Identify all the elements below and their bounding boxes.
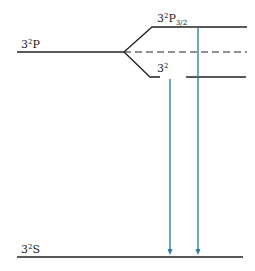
label-3p32-sub: 3/2 (176, 19, 187, 27)
label-3s: 32S (21, 244, 40, 255)
label-3p12: 32 (157, 63, 168, 74)
label-3p-rest: P (32, 38, 39, 51)
label-3s-rest: S (32, 243, 40, 256)
label-3p32-main: 3 (157, 12, 164, 25)
label-3s-main: 3 (21, 243, 28, 256)
label-3p: 32P (21, 39, 40, 50)
level-3p32-line (124, 27, 247, 52)
transition-d1-arrow (168, 79, 173, 255)
label-3p32-rest: P (168, 12, 175, 25)
label-3p32: 32P3/2 (157, 13, 187, 27)
label-3p12-main: 3 (157, 62, 164, 75)
label-3p-main: 3 (21, 38, 28, 51)
transition-d2-arrow (196, 27, 201, 255)
level-3p12-line-left (124, 52, 160, 77)
label-3p12-sup: 2 (164, 62, 168, 70)
